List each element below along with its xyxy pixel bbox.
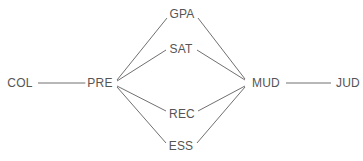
edge-rec-mud: [198, 86, 245, 111]
diagram-canvas: COLPREGPASATRECESSMUDJUD: [0, 0, 363, 161]
edge-ess-mud: [197, 87, 245, 143]
node-col[interactable]: COL: [5, 76, 34, 90]
edge-pre-rec: [117, 86, 166, 111]
node-sat[interactable]: SAT: [167, 42, 194, 56]
edge-gpa-mud: [198, 18, 245, 79]
node-mud[interactable]: MUD: [250, 76, 282, 90]
edge-sat-mud: [197, 50, 245, 80]
node-pre[interactable]: PRE: [85, 76, 114, 90]
node-rec[interactable]: REC: [167, 107, 197, 121]
edge-layer: [0, 0, 363, 161]
node-jud[interactable]: JUD: [334, 76, 362, 90]
edge-pre-ess: [117, 87, 166, 143]
node-ess[interactable]: ESS: [167, 139, 196, 153]
edge-pre-gpa: [117, 18, 167, 80]
edge-pre-sat: [117, 50, 166, 81]
node-gpa[interactable]: GPA: [167, 7, 196, 21]
